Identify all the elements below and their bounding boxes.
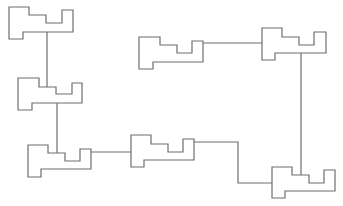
- puzzle-shape-node[interactable]: [18, 78, 82, 110]
- puzzle-shape-node[interactable]: [139, 37, 203, 69]
- connector-edge: [194, 142, 272, 183]
- diagram-canvas: [0, 0, 343, 206]
- nodes-layer: [9, 7, 335, 198]
- puzzle-shape-node[interactable]: [262, 28, 326, 60]
- puzzle-shape-node[interactable]: [131, 135, 194, 167]
- puzzle-shape-node[interactable]: [272, 167, 335, 198]
- puzzle-shape-node[interactable]: [9, 7, 73, 39]
- puzzle-shape-node[interactable]: [28, 145, 91, 177]
